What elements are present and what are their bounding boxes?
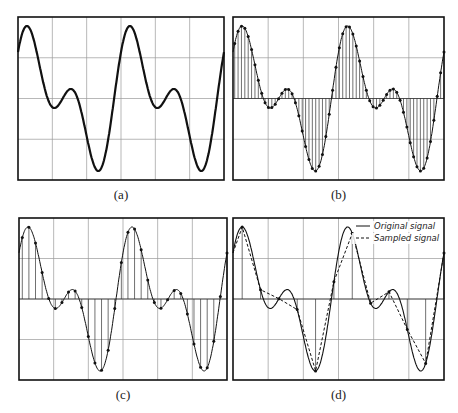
sample-point: [107, 349, 110, 352]
sample-point: [277, 97, 280, 100]
sample-point: [368, 99, 371, 102]
sample-point: [54, 307, 57, 310]
sample-point: [277, 297, 280, 300]
sample-point: [140, 248, 143, 251]
sample-point: [192, 343, 195, 346]
sample-point: [439, 71, 442, 74]
sample-point: [328, 113, 331, 116]
sample-point: [324, 135, 327, 138]
sample-point: [67, 291, 70, 294]
sample-point: [419, 169, 422, 172]
sample-point: [41, 271, 44, 274]
sample-point: [375, 106, 378, 109]
sample-point: [173, 289, 176, 292]
sample-point: [34, 241, 37, 244]
sample-point: [415, 165, 418, 168]
sample-point: [332, 280, 335, 283]
sample-point: [345, 25, 348, 28]
sample-point: [199, 366, 202, 369]
panel-caption: (c): [93, 387, 153, 403]
sample-point: [321, 153, 324, 156]
sample-point: [409, 141, 412, 144]
sample-point: [274, 103, 277, 106]
sample-point: [166, 298, 169, 301]
sample-point: [432, 119, 435, 122]
sample-point: [186, 312, 189, 315]
sample-point: [406, 328, 409, 331]
sample-point: [314, 169, 317, 172]
sample-point: [422, 167, 425, 170]
sample-point: [253, 63, 256, 66]
sample-point: [314, 369, 317, 372]
sample-point: [60, 301, 63, 304]
panel-caption: (d): [309, 387, 369, 403]
sample-point: [87, 335, 90, 338]
sample-point: [436, 95, 439, 98]
sample-point: [304, 145, 307, 148]
sample-point: [113, 307, 116, 310]
sample-point: [212, 340, 215, 343]
sample-point: [297, 114, 300, 117]
sample-point: [206, 366, 209, 369]
sample-point: [74, 290, 77, 293]
sample-point: [287, 88, 290, 91]
sample-point: [240, 25, 243, 28]
sample-point: [348, 26, 351, 29]
sample-point: [159, 307, 162, 310]
legend-label: Original signal: [374, 221, 436, 231]
sample-point: [100, 369, 103, 372]
sample-point: [369, 302, 372, 305]
sample-point: [267, 106, 270, 109]
sample-point: [259, 288, 262, 291]
sample-point: [296, 308, 299, 311]
panel-b: [233, 17, 444, 180]
sample-point: [257, 79, 260, 82]
panel-caption: (b): [309, 187, 369, 203]
sample-point: [338, 46, 341, 49]
sample-point: [358, 59, 361, 62]
sample-point: [146, 278, 149, 281]
sample-point: [429, 140, 432, 143]
sample-point: [291, 92, 294, 95]
sample-point: [47, 297, 50, 300]
sample-point: [365, 89, 368, 92]
sample-point: [284, 88, 287, 91]
sample-point: [93, 362, 96, 365]
sample-point: [426, 157, 429, 160]
sample-point: [241, 226, 244, 229]
sample-point: [334, 66, 337, 69]
sample-point: [237, 30, 240, 33]
sample-point: [395, 91, 398, 94]
sample-point: [341, 32, 344, 35]
sample-point: [399, 99, 402, 102]
sample-point: [219, 295, 222, 298]
sample-point: [388, 89, 391, 92]
sample-point: [311, 167, 314, 170]
sample-point: [402, 111, 405, 114]
sample-point: [133, 228, 136, 231]
sample-point: [382, 99, 385, 102]
panel-caption: (a): [91, 187, 151, 203]
sample-point: [264, 101, 267, 104]
sample-point: [153, 301, 156, 304]
sample-point: [318, 165, 321, 168]
sample-point: [260, 92, 263, 95]
sample-point: [387, 290, 390, 293]
sample-point: [270, 106, 273, 109]
sample-point: [385, 93, 388, 96]
sample-point: [126, 231, 129, 234]
sample-point: [280, 92, 283, 95]
sample-point: [243, 27, 246, 30]
sample-point: [351, 32, 354, 35]
legend-label: Sampled signal: [374, 233, 440, 243]
sample-point: [405, 126, 408, 129]
sample-point: [331, 89, 334, 92]
sample-point: [392, 88, 395, 91]
sample-point: [412, 155, 415, 158]
sample-point: [355, 44, 358, 47]
sample-point: [372, 105, 375, 108]
sample-point: [80, 306, 83, 309]
sample-point: [361, 75, 364, 78]
sample-point: [250, 48, 253, 51]
sample-point: [120, 261, 123, 264]
